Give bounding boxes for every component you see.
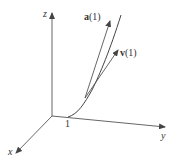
z-axis-label: z <box>42 8 47 19</box>
point-one-label: 1 <box>65 118 70 129</box>
acceleration-vector <box>85 21 110 98</box>
diagram-canvas: z y x 1 a(1) v(1) <box>0 0 179 159</box>
y-axis-label: y <box>160 130 166 141</box>
velocity-label-arg: (1) <box>125 47 137 59</box>
acceleration-label-arg: (1) <box>89 11 101 23</box>
velocity-vector <box>85 50 118 98</box>
space-curve <box>68 15 121 117</box>
x-axis-label: x <box>7 146 13 157</box>
x-axis <box>16 116 52 153</box>
velocity-label: v(1) <box>120 47 137 59</box>
acceleration-label: a(1) <box>84 11 101 23</box>
